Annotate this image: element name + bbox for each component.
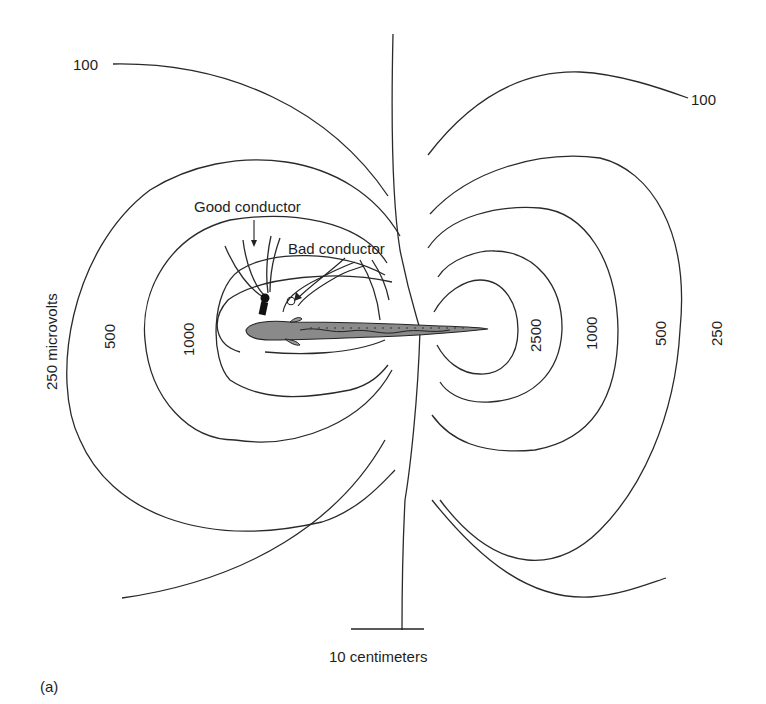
label-250-microvolts: 250 microvolts: [43, 293, 60, 390]
contour-inner-left-bottom: [265, 340, 385, 354]
annotation-labels: Good conductor Bad conductor: [194, 198, 385, 257]
good-conductor-ball: [261, 294, 270, 303]
annotation-arrows: [251, 220, 345, 301]
label-250-right: 250: [708, 321, 725, 346]
field-line-4: [270, 238, 280, 292]
electric-field-diagram: 100 100 250 microvolts 500 1000 2500 100…: [0, 0, 766, 704]
label-500-right: 500: [652, 321, 669, 346]
bad-conductor-arrow: [298, 258, 345, 298]
contour-100-right-bottom: [432, 500, 666, 597]
electric-fish: [246, 318, 488, 346]
contour-inner-left-head: [217, 276, 392, 352]
good-conductor-object: [259, 294, 270, 316]
label-1000-right: 1000: [583, 317, 600, 350]
scale-bar-label: 10 centimeters: [329, 648, 427, 665]
label-2500-right: 2500: [527, 319, 544, 352]
bad-conductor-label: Bad conductor: [288, 240, 385, 257]
label-100-right: 100: [691, 91, 716, 108]
label-100-left: 100: [73, 56, 98, 73]
contour-100-left: [113, 64, 388, 196]
panel-label: (a): [40, 678, 58, 695]
contour-100-left-bottom: [122, 440, 385, 598]
bad-conductor-ball: [287, 297, 295, 305]
label-500-left: 500: [101, 324, 118, 349]
label-1000-left: 1000: [180, 323, 197, 356]
contour-100-right: [428, 72, 688, 155]
good-conductor-label: Good conductor: [194, 198, 301, 215]
bad-conductor-object: [283, 262, 364, 312]
scale-bar: 10 centimeters: [329, 629, 427, 665]
fish-fin-top: [290, 318, 302, 322]
good-conductor-stem: [259, 301, 269, 315]
good-conductor-arrowhead-icon: [251, 240, 257, 247]
